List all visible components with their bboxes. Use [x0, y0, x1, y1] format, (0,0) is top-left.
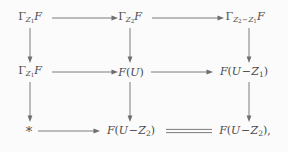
arrow-r2c2-to-r2c3	[151, 68, 213, 77]
gamma-symbol: Γ	[18, 64, 26, 77]
minus-sign: −	[128, 124, 138, 137]
arrow-r1c2-to-r2c2	[126, 28, 135, 63]
trailing-comma: ,	[267, 124, 271, 137]
gamma-symbol: Γ	[18, 10, 26, 23]
open-set-u: U	[231, 124, 240, 137]
gamma-symbol: Γ	[118, 10, 126, 23]
subscript-z1: Z1	[26, 16, 34, 24]
arrow-r3c1-to-r3c2	[38, 127, 100, 136]
close-paren: )	[264, 65, 268, 78]
arrow-r2c1-to-r2c2	[52, 68, 118, 77]
close-paren: )	[139, 66, 143, 79]
open-set-u: U	[232, 65, 241, 78]
arrow-r2c2-to-r3c2	[126, 82, 135, 122]
closed-set-z2: Z2	[138, 124, 150, 137]
subscript-z1: Z1	[26, 70, 34, 78]
functor-f: F	[34, 64, 42, 77]
functor-f: F	[219, 124, 227, 137]
arrow-r1c3-to-r2c3	[245, 28, 254, 63]
node-r2c1: ΓZ1F	[18, 65, 42, 79]
open-set-u: U	[130, 66, 139, 79]
node-r1c2: ΓZ2F	[118, 11, 142, 25]
commutative-diagram: ΓZ1F ΓZ2F ΓZ2−Z1F ΓZ1F F(U) F(U−Z1) * F(…	[0, 0, 288, 152]
arrow-r1c1-to-r2c1	[26, 28, 35, 63]
functor-f: F	[134, 10, 142, 23]
node-r2c3: F(U−Z1)	[220, 66, 268, 79]
equality-r3c2-to-r3c3	[166, 128, 212, 135]
arrow-r2c1-to-r3c1	[26, 82, 35, 122]
node-r3c2: F(U−Z2)	[107, 125, 155, 138]
functor-f: F	[118, 66, 126, 79]
closed-set-z2: Z2	[251, 124, 263, 137]
node-r1c1: ΓZ1F	[18, 11, 42, 25]
arrow-r1c1-to-r1c2	[52, 14, 118, 23]
node-r1c3: ΓZ2−Z1F	[225, 11, 264, 25]
open-set-u: U	[119, 124, 128, 137]
functor-f: F	[34, 10, 42, 23]
subscript-z2-minus-z1: Z2−Z1	[233, 16, 257, 24]
arrow-r1c2-to-r1c3	[152, 14, 224, 23]
minus-sign: −	[240, 124, 250, 137]
functor-f: F	[107, 124, 115, 137]
node-r2c2: F(U)	[118, 67, 144, 78]
minus-sign: −	[241, 65, 251, 78]
functor-f: F	[257, 10, 265, 23]
node-r3c1: *	[26, 125, 33, 138]
closed-set-z1: Z1	[251, 65, 263, 78]
gamma-symbol: Γ	[225, 10, 233, 23]
subscript-z2: Z2	[126, 16, 134, 24]
close-paren: )	[151, 124, 155, 137]
functor-f: F	[220, 65, 228, 78]
node-r3c3: F(U−Z2),	[219, 125, 271, 138]
terminal-object-star: *	[26, 124, 33, 139]
arrow-r2c3-to-r3c3	[245, 82, 254, 122]
